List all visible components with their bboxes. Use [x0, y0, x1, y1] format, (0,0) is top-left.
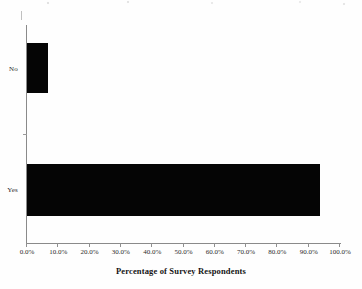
- x-axis-ticklabel-30: 30.0%: [112, 249, 130, 256]
- x-axis-tick-20: [89, 243, 90, 247]
- y-axis-tick-mid: [23, 134, 27, 135]
- x-axis-ticklabel-0: 0.0%: [20, 249, 35, 256]
- x-axis-ticklabel-60: 60.0%: [206, 249, 224, 256]
- x-axis-ticklabel-80: 80.0%: [268, 249, 286, 256]
- plot-area: No Yes 0.0% 10.0% 20.0% 30.0% 40.0% 50.0…: [27, 25, 340, 243]
- x-axis-ticklabel-10: 10.0%: [49, 249, 67, 256]
- x-axis-ticklabel-20: 20.0%: [81, 249, 99, 256]
- x-axis-tick-10: [57, 243, 58, 247]
- scan-artifact-mark: [21, 11, 22, 20]
- bar-chart-figure: No Yes 0.0% 10.0% 20.0% 30.0% 40.0% 50.0…: [0, 0, 362, 289]
- x-axis-tick-90: [308, 243, 309, 247]
- x-axis-tick-30: [120, 243, 121, 247]
- bar-yes: [27, 164, 320, 216]
- x-axis-ticklabel-50: 50.0%: [174, 249, 192, 256]
- x-axis-tick-50: [183, 243, 184, 247]
- x-axis-tick-60: [214, 243, 215, 247]
- x-axis-tick-70: [245, 243, 246, 247]
- x-axis-line: [26, 243, 341, 244]
- y-axis-label-yes: Yes: [7, 187, 18, 194]
- scan-artifact: [0, 0, 362, 9]
- bar-no: [27, 43, 48, 93]
- x-axis-tick-100: [339, 243, 340, 247]
- x-axis-tick-80: [276, 243, 277, 247]
- x-axis-title: Percentage of Survey Respondents: [0, 266, 362, 276]
- x-axis-ticklabel-70: 70.0%: [237, 249, 255, 256]
- x-axis-tick-40: [151, 243, 152, 247]
- x-axis-ticklabel-90: 90.0%: [300, 249, 318, 256]
- y-axis-label-no: No: [9, 66, 18, 73]
- x-axis-ticklabel-40: 40.0%: [143, 249, 161, 256]
- x-axis-tick-0: [26, 243, 27, 247]
- x-axis-ticklabel-100: 100.0%: [329, 249, 351, 256]
